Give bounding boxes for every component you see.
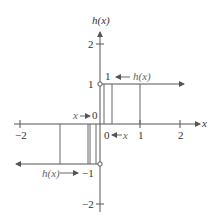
y-tick-1: 1	[88, 78, 94, 90]
step-function-diagram: h(x) x −2 1 2 2 1 −2 1 h(x) 0 x x 0 h(x)…	[0, 0, 211, 224]
open-circle-bottom	[98, 162, 102, 166]
annot-zero-right: 0	[104, 129, 110, 141]
annot-limit-1: 1	[105, 70, 111, 82]
annot-zero-left: 0	[92, 109, 98, 121]
open-circle-top	[98, 82, 102, 86]
x-tick-2: 2	[178, 129, 184, 141]
annot-hx-right: h(x)	[133, 70, 151, 83]
x-tick-neg2: −2	[15, 129, 27, 141]
y-axis-label: h(x)	[92, 14, 110, 27]
y-tick-neg2: −2	[82, 198, 94, 210]
x-axis-label: x	[201, 117, 207, 129]
y-tick-2: 2	[88, 38, 94, 50]
annot-x-right: x	[122, 129, 128, 141]
annot-x-left: x	[72, 109, 78, 121]
x-tick-1: 1	[138, 129, 144, 141]
annot-hx-left: h(x)	[42, 167, 60, 180]
annot-limit-neg1: −1	[82, 167, 94, 179]
